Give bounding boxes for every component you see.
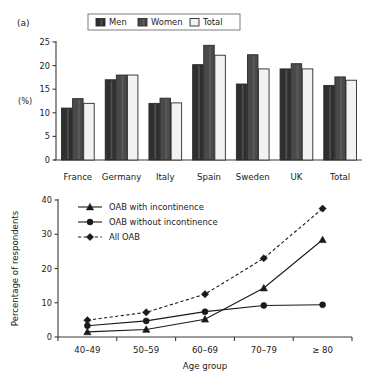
- panel-a-label: (a): [17, 18, 30, 28]
- legend-marker-2: [86, 233, 93, 240]
- panel-b-x-tick-label-1: 50–59: [133, 345, 159, 355]
- legend-swatch-shading: [143, 19, 145, 25]
- bar-spain-men: [193, 65, 204, 160]
- panel-a-x-tick-label-total: Total: [329, 172, 350, 182]
- panel-a-x-tick-label-italy: Italy: [156, 172, 175, 182]
- legend-label-total: Total: [202, 17, 223, 27]
- bar-shading: [198, 66, 200, 159]
- bar-france-men: [62, 108, 73, 160]
- panel-a-y-tick-label: 0: [45, 155, 50, 165]
- panel-a-bar-chart: (a) 0510152025(%)FranceGermanyItalySpain…: [0, 0, 374, 190]
- bar-shading: [286, 70, 288, 159]
- panel-a-y-tick-label: 20: [40, 61, 50, 71]
- panel-b-svg: 01020304040–4950–5960–6970–79≥ 80Age gro…: [0, 185, 374, 377]
- bar-shading: [122, 76, 124, 159]
- bar-shading: [165, 99, 167, 159]
- panel-b-x-tick-label-4: ≥ 80: [312, 345, 333, 355]
- bar-sweden-men: [236, 84, 247, 160]
- series-0-point-2: [201, 316, 208, 322]
- series-2-point-0: [84, 317, 91, 324]
- legend-swatch-women: [138, 19, 147, 27]
- panel-a-y-axis-title: (%): [18, 96, 32, 106]
- bar-shading: [253, 56, 255, 159]
- bar-shading: [67, 109, 69, 159]
- bar-shading: [329, 86, 331, 159]
- bar-germany-men: [105, 80, 116, 160]
- bar-total-men: [324, 85, 335, 160]
- panel-b-y-tick-label: 40: [42, 195, 52, 205]
- series-2-point-1: [143, 309, 150, 316]
- legend-label-1: OAB without incontinence: [109, 217, 218, 227]
- bar-spain-total: [215, 55, 226, 160]
- bar-shading: [78, 100, 80, 159]
- panel-a-x-tick-label-uk: UK: [290, 172, 302, 182]
- panel-a-y-tick-label: 5: [45, 131, 50, 141]
- bar-uk-total: [302, 69, 313, 160]
- bar-france-women: [73, 99, 84, 160]
- bar-france-total: [84, 103, 95, 160]
- bar-spain-women: [204, 45, 215, 160]
- bar-sweden-total: [259, 69, 270, 160]
- legend-swatch-total: [190, 19, 199, 27]
- panel-b-y-axis-title: Percentage of respondents: [10, 210, 20, 326]
- bar-shading: [297, 65, 299, 159]
- panel-b-y-tick-label: 30: [42, 229, 52, 239]
- panel-a-x-tick-label-spain: Spain: [197, 172, 221, 182]
- panel-b-x-tick-label-3: 70–79: [251, 345, 277, 355]
- panel-a-x-tick-label-sweden: Sweden: [236, 172, 270, 182]
- panel-b-x-tick-label-0: 40–49: [74, 345, 100, 355]
- bar-shading: [154, 104, 156, 159]
- series-1-point-3: [261, 302, 267, 308]
- figure-container: (a) 0510152025(%)FranceGermanyItalySpain…: [0, 0, 374, 377]
- series-0-point-4: [319, 236, 326, 242]
- panel-b-x-tick-label-2: 60–69: [192, 345, 218, 355]
- panel-a-x-tick-label-germany: Germany: [102, 172, 142, 182]
- panel-a-svg: 0510152025(%)FranceGermanyItalySpainSwed…: [0, 0, 374, 190]
- series-1-point-4: [320, 302, 326, 308]
- legend-label-0: OAB with incontinence: [109, 202, 204, 212]
- series-2-point-2: [201, 291, 208, 298]
- series-1-point-2: [202, 309, 208, 315]
- legend-marker-1: [87, 219, 93, 225]
- bar-shading: [111, 81, 113, 159]
- bar-italy-men: [149, 103, 160, 160]
- panel-a-y-tick-label: 25: [40, 37, 50, 47]
- panel-b-y-tick-label: 10: [42, 298, 52, 308]
- panel-b-x-axis-title: Age group: [183, 361, 227, 371]
- panel-a-y-tick-label: 10: [40, 108, 50, 118]
- legend-swatch-men: [96, 19, 105, 27]
- panel-a-y-tick-label: 15: [40, 84, 50, 94]
- bar-total-women: [335, 77, 346, 160]
- panel-b-y-tick-label: 20: [42, 264, 52, 274]
- legend-swatch-shading: [101, 19, 103, 25]
- series-1-point-1: [143, 318, 149, 324]
- legend-label-women: Women: [151, 17, 183, 27]
- bar-germany-total: [127, 75, 137, 160]
- legend-label-men: Men: [109, 17, 127, 27]
- bar-shading: [209, 46, 211, 159]
- bar-uk-women: [291, 64, 302, 160]
- bar-total-total: [346, 80, 357, 160]
- panel-a-x-tick-label-france: France: [64, 172, 93, 182]
- bar-italy-women: [160, 98, 171, 160]
- legend-label-2: All OAB: [109, 232, 140, 242]
- panel-b-y-tick-label: 0: [47, 332, 52, 342]
- bar-sweden-women: [247, 55, 258, 160]
- bar-germany-women: [116, 75, 127, 160]
- bar-shading: [340, 78, 342, 159]
- bar-shading: [242, 85, 244, 159]
- panel-b-line-chart: (b) 01020304040–4950–5960–6970–79≥ 80Age…: [0, 185, 374, 377]
- bar-uk-men: [280, 69, 291, 160]
- bar-italy-total: [171, 103, 182, 160]
